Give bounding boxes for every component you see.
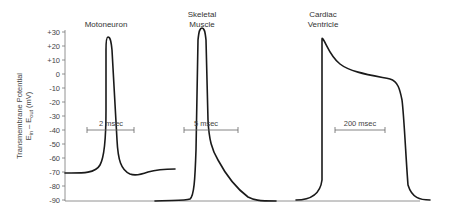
y-tick-label: -90 [49,196,60,205]
scale-bar-cardiac-ventricle: 200 msec [335,119,385,133]
y-axis-label: Transmembrane Potential Ein – Eout (mV) [15,73,34,159]
panel-title-cardiac-line2: Ventricle [308,20,339,29]
y-tick-label: -30 [49,112,60,121]
scale-bar-label: 200 msec [344,119,377,128]
scale-bar-label: 2 msec [99,119,123,128]
y-tick-label: -60 [49,154,60,163]
trace-skeletal-muscle [155,28,276,201]
action-potential-figure: Transmembrane Potential Ein – Eout (mV) … [0,0,458,219]
y-tick-label: 0 [56,70,60,79]
y-axis-label-line1: Transmembrane Potential [15,73,24,159]
y-tick-label: -80 [49,182,60,191]
y-tick-label: +10 [47,56,60,65]
y-axis-label-line2: Ein – Eout (mV) [24,91,34,140]
trace-motoneuron [65,37,175,175]
panel-title-cardiac-line1: Cardiac [309,10,337,19]
y-tick-labels: +30 +20 +10 0 -10 -20 -30 -40 -50 -60 -7… [47,28,60,205]
scale-bar-skeletal-muscle: 5 msec [184,119,238,133]
panel-title-motoneuron: Motoneuron [85,20,128,29]
y-tick-label: +30 [47,28,60,37]
y-tick-label: -70 [49,168,60,177]
y-tick-label: -50 [49,140,60,149]
y-tick-label: +20 [47,42,60,51]
y-ticks [62,32,65,200]
panel-title-skeletal-line1: Skeletal [188,10,217,19]
y-tick-label: -10 [49,84,60,93]
y-tick-label: -40 [49,126,60,135]
y-tick-label: -20 [49,98,60,107]
scale-bar-label: 5 msec [194,119,218,128]
scale-bar-motoneuron: 2 msec [87,119,134,133]
